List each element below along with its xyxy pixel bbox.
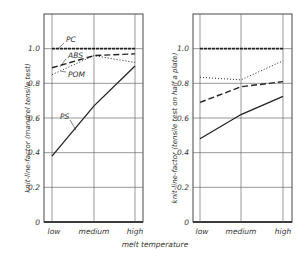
series-label-abs: ABS <box>67 51 83 60</box>
x-tick-label: medium <box>79 227 110 236</box>
x-tick-label: high <box>127 227 144 236</box>
chart: 00.20.40.60.81.0lowmediumhighknit-line-f… <box>0 0 303 257</box>
series-label-pc: PC <box>66 35 77 44</box>
y-tick-label: 1.0 <box>28 44 40 53</box>
x-tick-label: low <box>48 227 62 236</box>
series-label-leader <box>61 71 66 72</box>
panel-tensile-half-plate: 00.20.40.60.81.0lowmediumhighknit-line-f… <box>171 14 292 236</box>
panel-mandrel-tensile-test: 00.20.40.60.81.0lowmediumhighknit-line-f… <box>24 14 143 236</box>
series-label-pom: POM <box>68 70 85 79</box>
series-label-ps: PS <box>60 112 70 121</box>
series-line-pom <box>200 61 283 80</box>
y-tick-label: 0 <box>184 218 189 227</box>
y-axis-label: knit-line-factor (mandrel tensile test) <box>24 63 32 193</box>
series-line-abs <box>200 82 283 103</box>
x-axis-label: melt temperature <box>122 240 189 249</box>
y-tick-label: 1.0 <box>177 44 189 53</box>
y-tick-label: 0 <box>35 218 40 227</box>
x-tick-label: high <box>275 227 292 236</box>
series-label-leader <box>60 59 66 67</box>
x-tick-label: medium <box>226 227 257 236</box>
series-line-ps <box>200 96 283 138</box>
series-label-leader <box>58 43 64 49</box>
y-axis-label: knit-line-factor (tensile test on half a… <box>171 52 179 203</box>
x-tick-label: low <box>196 227 210 236</box>
series-label-leader <box>70 120 76 130</box>
